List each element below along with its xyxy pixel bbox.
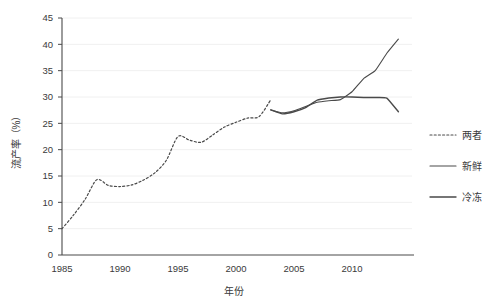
y-tick-label-5: 5 xyxy=(48,223,53,234)
x-tick-label-1995: 1995 xyxy=(167,263,188,274)
series-paths xyxy=(62,39,398,229)
y-axis-ticks xyxy=(58,18,62,255)
series-path-1 xyxy=(62,100,271,229)
y-tick-label-20: 20 xyxy=(42,144,53,155)
legend-label-2: 新鲜 xyxy=(462,160,482,172)
legend-label-3: 冷冻 xyxy=(462,191,482,203)
x-tick-label-1990: 1990 xyxy=(109,263,130,274)
y-axis-tick-labels: 051015202530354045 xyxy=(42,12,53,260)
x-tick-label-2010: 2010 xyxy=(341,263,362,274)
x-tick-label-2000: 2000 xyxy=(225,263,246,274)
y-tick-label-10: 10 xyxy=(42,197,53,208)
y-tick-label-30: 30 xyxy=(42,91,53,102)
y-tick-label-15: 15 xyxy=(42,170,53,181)
legend-label-1: 两者 xyxy=(462,130,482,141)
x-axis-tick-labels: 198519901995200020052010 xyxy=(51,263,362,274)
y-tick-label-40: 40 xyxy=(42,39,53,50)
y-axis-title: 流产率（%） xyxy=(10,111,22,170)
y-tick-label-0: 0 xyxy=(48,249,53,260)
y-tick-label-25: 25 xyxy=(42,118,53,129)
chart-legend: 两者新鲜冷冻 xyxy=(430,130,482,203)
series-path-2 xyxy=(271,39,399,113)
y-tick-label-35: 35 xyxy=(42,65,53,76)
line-chart: 051015202530354045 198519901995200020052… xyxy=(0,0,504,307)
y-tick-label-45: 45 xyxy=(42,12,53,23)
x-tick-label-1985: 1985 xyxy=(51,263,72,274)
x-axis-title: 年份 xyxy=(224,285,244,297)
gridlines xyxy=(62,18,412,229)
x-tick-label-2005: 2005 xyxy=(283,263,304,274)
